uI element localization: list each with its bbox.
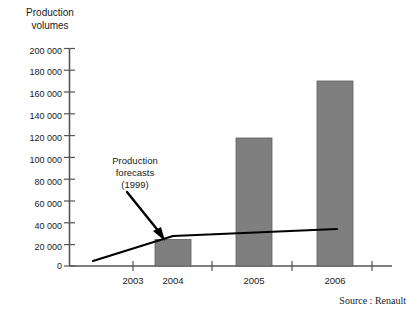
forecast-line [93,229,337,261]
x-tick-label-2006: 2006 [305,276,365,286]
forecast-annotation-label: Production forecasts (1999) [80,155,190,191]
production-volumes-chart: Production volumes 200 000 180 000 160 0… [0,0,412,312]
x-tick-label-2004: 2004 [143,276,203,286]
bar-2005 [236,138,272,266]
bar-2006 [317,81,353,266]
plot-area [0,0,412,312]
source-note: Source : Renault [339,295,406,306]
bar-2004 [155,240,191,267]
x-tick-label-2005: 2005 [224,276,284,286]
annotation-arrow-icon [127,192,165,241]
